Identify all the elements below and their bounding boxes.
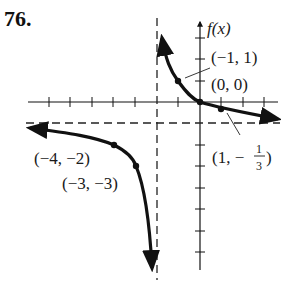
label-close-paren: ) (266, 148, 272, 167)
point-1-neg-third (218, 106, 224, 112)
rational-function-graph: f(x) (−1, 1) (0, 0) (1, − 1 3 ) (−4, −2)… (0, 0, 281, 286)
label-origin: (0, 0) (211, 75, 248, 94)
point-neg3-neg3 (133, 163, 139, 169)
point-neg1-1 (175, 78, 181, 84)
label-neg3-neg3: (−3, −3) (62, 174, 118, 193)
point-origin (197, 99, 203, 105)
label-frac-num: 1 (256, 142, 262, 156)
label-frac-den: 3 (256, 159, 262, 173)
label-neg1-1: (−1, 1) (211, 48, 257, 67)
label-neg4-neg2: (−4, −2) (34, 149, 90, 168)
y-axis-label: f(x) (207, 19, 231, 38)
point-neg4-neg2 (111, 142, 117, 148)
label-1-neg-third: (1, − (212, 148, 244, 167)
y-axis (195, 22, 205, 270)
x-axis (28, 97, 278, 107)
